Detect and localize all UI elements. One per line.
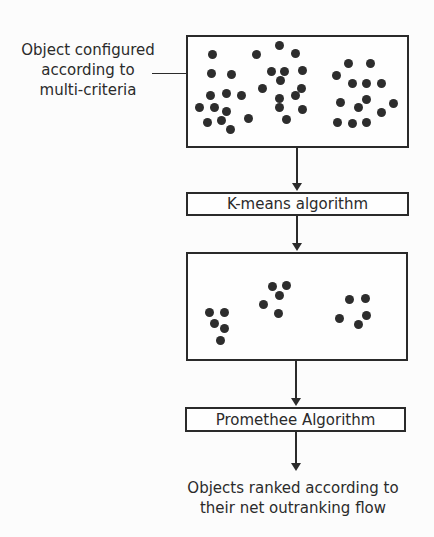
flow-arrow-4-tip (291, 463, 301, 471)
object-dot (389, 99, 398, 108)
object-dot (335, 314, 344, 323)
object-dot (298, 105, 307, 114)
object-dot (275, 94, 284, 103)
object-dot (227, 70, 236, 79)
object-dot (362, 79, 371, 88)
object-dot (222, 107, 231, 116)
object-dot (366, 59, 375, 68)
objects-box (186, 35, 409, 148)
object-dot (203, 118, 212, 127)
flow-arrow-3-tip (291, 398, 301, 406)
output-line-1: Objects ranked according to (173, 478, 413, 498)
flow-diagram: Object configured according to multi-cri… (0, 0, 434, 537)
object-dot (362, 311, 371, 320)
object-dot (332, 71, 341, 80)
object-dot (220, 324, 229, 333)
output-label: Objects ranked according to their net ou… (173, 478, 413, 518)
object-dot (222, 89, 231, 98)
object-dot (275, 291, 284, 300)
object-dot (207, 69, 216, 78)
object-dot (354, 320, 363, 329)
flow-arrow-2-tip (292, 243, 302, 251)
object-dot (268, 282, 277, 291)
object-dot (206, 91, 215, 100)
object-dot (348, 119, 357, 128)
flow-arrow-4-icon (291, 432, 302, 471)
object-dot (226, 125, 235, 134)
object-dot (377, 108, 386, 117)
object-dot (275, 103, 284, 112)
object-dot (210, 319, 219, 328)
flow-arrow-1-icon (292, 148, 303, 191)
annotation-line-3: multi-criteria (15, 80, 161, 100)
flow-arrow-2-shaft (296, 216, 298, 244)
object-dot (244, 114, 253, 123)
object-dot (291, 91, 300, 100)
object-dot (361, 294, 370, 303)
object-dot (252, 50, 261, 59)
object-dot (377, 79, 386, 88)
object-dot (205, 308, 214, 317)
object-dot (274, 309, 283, 318)
object-dot (208, 50, 217, 59)
object-dot (348, 79, 357, 88)
flow-arrow-4-shaft (295, 432, 297, 464)
object-dot (220, 308, 229, 317)
object-dot (333, 118, 342, 127)
object-dot (362, 95, 371, 104)
object-dot (259, 300, 268, 309)
object-dot (276, 76, 285, 85)
object-dot (237, 91, 246, 100)
object-dot (217, 116, 226, 125)
annotation-line-2: according to (15, 60, 161, 80)
flow-arrow-3-shaft (295, 361, 297, 399)
object-dot (267, 67, 276, 76)
object-dot (216, 336, 225, 345)
object-dot (345, 295, 354, 304)
clusters-box (186, 252, 408, 361)
flow-arrow-3-icon (291, 361, 302, 406)
object-dot (354, 103, 363, 112)
object-dot (195, 103, 204, 112)
kmeans-label: K-means algorithm (227, 195, 368, 213)
kmeans-box: K-means algorithm (186, 192, 409, 216)
output-line-2: their net outranking flow (173, 498, 413, 518)
object-dot (362, 118, 371, 127)
annotation-line-1: Object configured (15, 40, 161, 60)
object-dot (258, 84, 267, 93)
object-dot (280, 67, 289, 76)
flow-arrow-2-icon (292, 216, 303, 251)
object-dot (210, 103, 219, 112)
object-dot (282, 281, 291, 290)
object-dot (282, 115, 291, 124)
annotation-label: Object configured according to multi-cri… (15, 40, 161, 100)
object-dot (275, 41, 284, 50)
object-dot (298, 66, 307, 75)
object-dot (344, 59, 353, 68)
flow-arrow-1-tip (292, 183, 302, 191)
promethee-box: Promethee Algorithm (185, 407, 406, 432)
object-dot (336, 98, 345, 107)
promethee-label: Promethee Algorithm (216, 411, 376, 429)
flow-arrow-1-shaft (296, 148, 298, 184)
object-dot (291, 49, 300, 58)
